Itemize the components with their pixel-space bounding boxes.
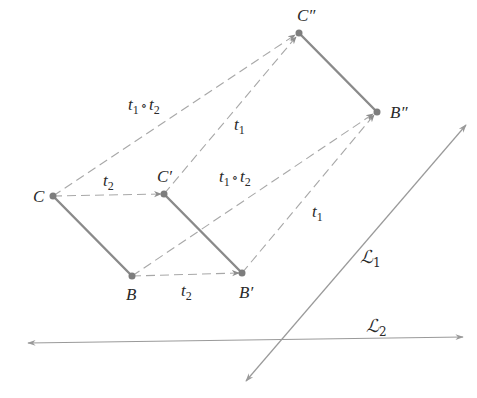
label-t1-upper: t1: [234, 116, 245, 136]
arrow-t1-b: [242, 115, 374, 273]
label-composite-upper: t1∘t2: [128, 96, 160, 116]
arrow-t2-c: [53, 194, 161, 196]
segment-cb: [53, 196, 132, 276]
diagram-canvas: C C′ B B′ C″ B″ t2 t2 t1 t1 t1∘t2 t1∘t2 …: [0, 0, 477, 398]
arrow-composite-c: [53, 35, 295, 196]
label-c-double-prime: C″: [297, 7, 315, 24]
label-c-prime: C′: [157, 168, 172, 185]
arrow-t2-b: [132, 273, 239, 276]
point-b-double-prime: [374, 109, 381, 116]
point-c-prime: [161, 191, 168, 198]
arrow-composite-b: [132, 114, 373, 276]
label-composite-lower: t1∘t2: [219, 168, 251, 188]
line-l1: [246, 125, 466, 381]
point-b-prime: [239, 270, 246, 277]
point-c-double-prime: [296, 30, 303, 37]
label-t2-bottom: t2: [181, 282, 192, 302]
label-b-double-prime: B″: [390, 104, 407, 121]
label-b: B: [126, 286, 136, 303]
segment-cpbp: [164, 194, 242, 273]
line-l2: [28, 337, 463, 343]
diagram-svg: [0, 0, 477, 398]
label-l2: ℒ2: [366, 317, 387, 338]
label-t2-top: t2: [103, 172, 114, 192]
label-t1-lower: t1: [312, 203, 323, 223]
label-c: C: [33, 188, 44, 205]
segment-cppbpp: [299, 33, 377, 112]
label-l1: ℒ1: [360, 248, 381, 269]
point-c: [50, 193, 57, 200]
point-b: [129, 273, 136, 280]
label-b-prime: B′: [239, 284, 253, 301]
